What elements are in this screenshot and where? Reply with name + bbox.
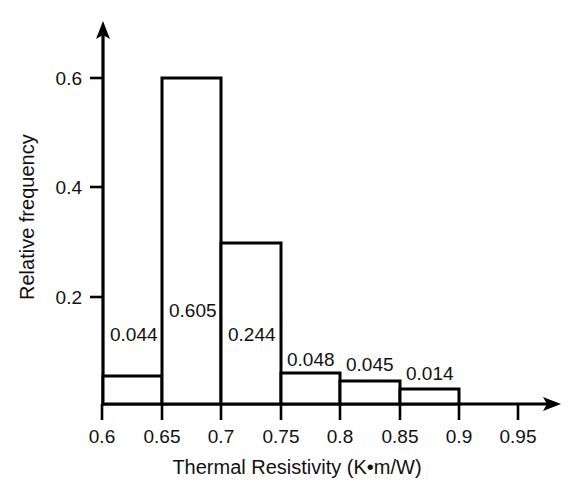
x-tick-label-0.75: 0.75	[263, 426, 300, 447]
x-tick-label-0.8: 0.8	[327, 426, 353, 447]
x-tick-label-0.85: 0.85	[382, 426, 419, 447]
x-tick-label-0.7: 0.7	[208, 426, 234, 447]
x-tick-label-0.6: 0.6	[89, 426, 115, 447]
bar-value-label-2: 0.605	[169, 300, 217, 321]
histogram-bar-5	[340, 381, 400, 404]
y-axis-title: Relative frequency	[16, 134, 38, 300]
x-tick-marks	[102, 404, 518, 420]
x-tick-label-0.65: 0.65	[144, 426, 181, 447]
histogram-bar-6	[400, 389, 459, 404]
y-tick-label-0.4: 0.4	[56, 177, 83, 198]
histogram-bar-4	[281, 373, 340, 404]
histogram-bars	[103, 78, 459, 404]
x-axis-title: Thermal Resistivity (K•m/W)	[172, 456, 421, 478]
bar-value-label-6: 0.014	[406, 363, 454, 384]
y-tick-labels: 0.6 0.4 0.2	[56, 68, 83, 308]
histogram-figure: 0.6 0.4 0.2 Relative frequency 0.6 0.65 …	[0, 0, 583, 489]
x-tick-label-0.9: 0.9	[446, 426, 472, 447]
histogram-bar-2	[162, 78, 221, 404]
bar-value-label-3: 0.244	[228, 324, 276, 345]
y-tick-label-0.6: 0.6	[56, 68, 82, 89]
x-tick-label-0.95: 0.95	[500, 426, 537, 447]
histogram-bar-1	[103, 376, 162, 404]
bar-value-label-1: 0.044	[110, 324, 158, 345]
bar-value-label-5: 0.045	[346, 354, 394, 375]
y-tick-label-0.2: 0.2	[56, 287, 82, 308]
x-tick-labels: 0.6 0.65 0.7 0.75 0.8 0.85 0.9 0.95	[89, 426, 537, 447]
bar-value-label-4: 0.048	[287, 349, 335, 370]
histogram-plot: 0.6 0.4 0.2 Relative frequency 0.6 0.65 …	[0, 0, 583, 489]
